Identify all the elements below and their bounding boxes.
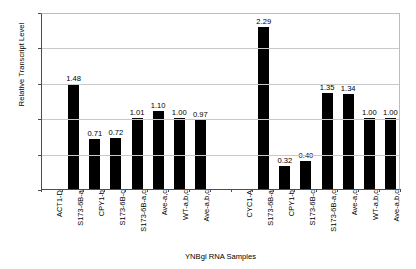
bar-slot: 1.00	[359, 14, 380, 189]
bar-value-label: 0.71	[87, 129, 102, 138]
bar-slot	[42, 14, 63, 189]
bar-value-label: 1.48	[66, 74, 81, 83]
x-axis-tick-mark	[231, 189, 232, 192]
x-axis-tick-label: WT-a,b,c	[371, 190, 380, 260]
bar-value-label: 1.34	[341, 84, 356, 93]
x-axis-tick-mark	[316, 189, 317, 192]
bar	[322, 93, 333, 189]
x-axis-tick-label: Ave-a,c	[350, 190, 359, 260]
bar-slot: 0.72	[105, 14, 126, 189]
bar-slot: 0.71	[84, 14, 105, 189]
x-axis-tick-label: S173-6B-a	[76, 190, 85, 260]
bar-slot: 1.00	[380, 14, 401, 189]
x-axis-tick-label: WT-a,b,c	[181, 190, 190, 260]
bar	[258, 27, 269, 189]
x-axis-tick-label: Ave-a,c	[160, 190, 169, 260]
bar-slot: 1.35	[317, 14, 338, 189]
x-axis-tick-label: S173-6B-a,c	[139, 190, 148, 260]
bar-slot: 0.40	[295, 14, 316, 189]
x-axis-tick-label: S173-6B-a,c	[329, 190, 338, 260]
x-axis-tick-mark	[294, 189, 295, 192]
x-axis-tick-label: CYC1-A	[245, 190, 254, 260]
bar	[110, 138, 121, 189]
x-axis-tick-mark	[168, 189, 169, 192]
y-axis-tick-mark	[38, 119, 41, 120]
x-axis-tick-label: S173-6B-c	[308, 190, 317, 260]
x-axis-tick-label: Ave-a,b,c	[202, 190, 211, 260]
bar	[279, 166, 290, 189]
x-axis-tick-mark	[83, 189, 84, 192]
y-axis-tick-mark	[38, 155, 41, 156]
bar	[343, 94, 354, 189]
x-axis-tick-label: S173-6B-a	[266, 190, 275, 260]
bar-slot	[232, 14, 253, 189]
x-axis-tick-mark	[125, 189, 126, 192]
bar-value-label: 1.00	[362, 108, 377, 117]
y-axis-tick-mark	[38, 48, 41, 49]
bar-value-label: 0.72	[109, 128, 124, 137]
bar-slot: 0.32	[274, 14, 295, 189]
x-axis-tick-mark	[358, 189, 359, 192]
bar-slot: 0.97	[190, 14, 211, 189]
bar	[132, 118, 143, 190]
bar	[364, 118, 375, 189]
x-axis-tick-mark	[252, 189, 253, 192]
gridline	[42, 119, 399, 120]
x-axis-tick-mark	[400, 189, 401, 192]
x-axis-tick-mark	[379, 189, 380, 192]
bar	[153, 111, 164, 189]
x-axis-tick-mark	[189, 189, 190, 192]
x-axis-tick-mark	[210, 189, 211, 192]
bar-slot	[211, 14, 232, 189]
gridline	[42, 155, 399, 156]
bar-slot: 1.01	[126, 14, 147, 189]
x-axis-labels: ACT1-DS173-6B-aCPY1-bS173-6B-cS173-6B-a,…	[41, 192, 400, 252]
bar-value-label: 1.00	[383, 108, 398, 117]
x-axis-tick-mark	[41, 189, 42, 192]
y-axis-tick-mark	[38, 13, 41, 14]
bar-slot: 1.34	[338, 14, 359, 189]
bar	[300, 161, 311, 189]
bar-slot: 1.00	[169, 14, 190, 189]
x-axis-tick-mark	[147, 189, 148, 192]
x-axis-tick-label: ACT1-D	[55, 190, 64, 260]
bar	[68, 84, 79, 189]
bar	[89, 139, 100, 189]
x-axis-tick-mark	[273, 189, 274, 192]
bar-chart: Relative Transcript Level 1.480.710.721.…	[0, 0, 416, 269]
bar-slot: 2.29	[253, 14, 274, 189]
x-axis-tick-mark	[62, 189, 63, 192]
x-axis-tick-label: S173-6B-c	[118, 190, 127, 260]
bar-slot: 1.48	[63, 14, 84, 189]
bar-value-label: 0.97	[193, 110, 208, 119]
gridline	[42, 48, 399, 49]
bar-value-label: 2.29	[256, 17, 271, 26]
x-axis-title: YNBgl RNA Samples	[41, 252, 400, 261]
bar-slot: 1.10	[148, 14, 169, 189]
bar	[385, 118, 396, 189]
bar-value-label: 0.32	[277, 156, 292, 165]
x-axis-tick-label: CPY1-b	[97, 190, 106, 260]
bar	[174, 118, 185, 189]
y-axis-title: Relative Transcript Level	[17, 0, 26, 140]
x-axis-tick-mark	[337, 189, 338, 192]
bar-value-label: 1.00	[172, 108, 187, 117]
bar-value-label: 1.01	[130, 108, 145, 117]
x-axis-tick-label: CPY1-b	[287, 190, 296, 260]
bar-series: 1.480.710.721.011.101.000.972.290.320.40…	[42, 14, 399, 189]
y-axis-tick-mark	[38, 84, 41, 85]
bar-value-label: 1.10	[151, 101, 166, 110]
x-axis-tick-mark	[104, 189, 105, 192]
gridline	[42, 84, 399, 85]
plot-area: 1.480.710.721.011.101.000.972.290.320.40…	[41, 13, 400, 190]
x-axis-tick-label: Ave-a,b,c	[392, 190, 401, 260]
